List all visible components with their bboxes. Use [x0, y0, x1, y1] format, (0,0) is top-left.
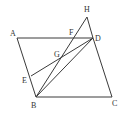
labels-group: ADBCHFGE — [10, 5, 117, 110]
parallelogram-diagram: ADBCHFGE — [0, 0, 124, 113]
point-label-a: A — [10, 29, 16, 38]
geometry-figure: ADBCHFGE — [0, 0, 124, 113]
point-label-d: D — [95, 34, 101, 43]
point-label-c: C — [112, 99, 117, 108]
segments-group — [17, 17, 112, 97]
segment-hd — [87, 17, 93, 38]
point-label-e: E — [22, 76, 27, 85]
segment-dc — [93, 38, 112, 97]
point-label-g: G — [54, 50, 60, 59]
point-label-b: B — [31, 101, 36, 110]
segment-ab — [17, 38, 36, 97]
point-label-h: H — [84, 5, 90, 14]
point-label-f: F — [69, 28, 74, 37]
